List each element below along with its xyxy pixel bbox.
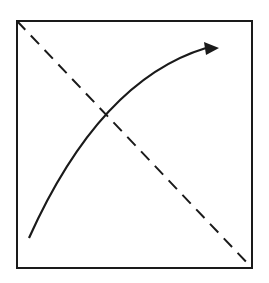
arrowhead-icon [204,42,219,55]
curved-arrow-line [29,48,206,238]
dashed-diagonal-line [17,21,252,268]
diagram-canvas [0,0,269,283]
diagram-svg [0,0,269,283]
